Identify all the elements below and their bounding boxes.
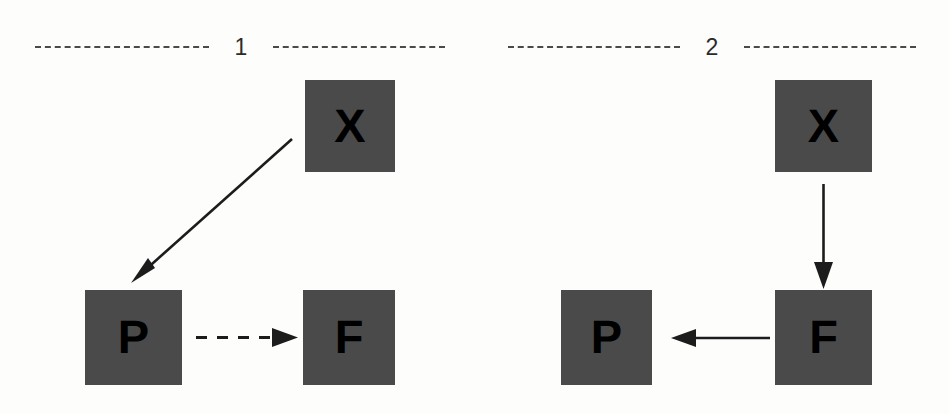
node-label: X xyxy=(334,102,365,149)
node-f: F xyxy=(303,290,395,385)
panel-1-number: 1 xyxy=(209,36,274,59)
panel-1-rule-right xyxy=(273,46,445,48)
panel-1-header: 1 xyxy=(0,30,475,64)
panel-1: 1 X P F xyxy=(0,0,475,414)
edge-x-to-p xyxy=(131,139,292,283)
edge-p-to-f xyxy=(196,328,298,347)
panel-2-number: 2 xyxy=(680,36,745,59)
figure-root: 1 X P F 2 xyxy=(0,0,949,414)
edge-f-to-p xyxy=(671,329,770,347)
node-label: P xyxy=(591,313,622,360)
node-label: P xyxy=(118,313,149,360)
panel-2-rule-left xyxy=(508,46,680,48)
panel-2: 2 X P F xyxy=(475,0,949,414)
node-label: F xyxy=(335,313,364,360)
panel-2-header: 2 xyxy=(475,30,949,64)
node-f: F xyxy=(775,290,872,385)
node-x: X xyxy=(305,80,395,172)
panel-1-rule-left xyxy=(35,46,209,48)
node-label: X xyxy=(808,102,839,149)
panel-2-rule-right xyxy=(744,46,916,48)
edge-x-to-f xyxy=(814,184,833,289)
node-x: X xyxy=(775,80,872,172)
node-p: P xyxy=(561,290,652,385)
node-p: P xyxy=(85,290,182,385)
node-label: F xyxy=(809,313,838,360)
